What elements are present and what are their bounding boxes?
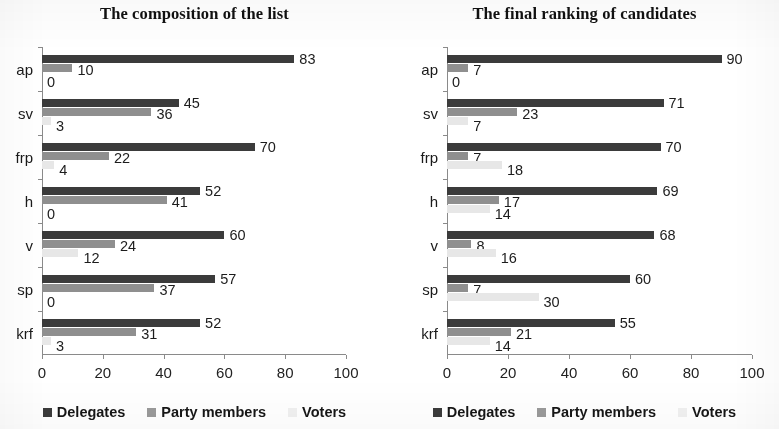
legend-item[interactable]: Voters bbox=[288, 404, 346, 420]
bar-voters bbox=[42, 249, 78, 257]
bar-voters bbox=[447, 249, 496, 257]
legend-label: Party members bbox=[161, 404, 266, 420]
legend-swatch-icon bbox=[43, 408, 52, 417]
bar-delegates bbox=[42, 143, 255, 151]
x-axis-tick-label: 20 bbox=[94, 364, 111, 381]
bar-group: ap83100 bbox=[42, 47, 346, 91]
bar-value-label: 14 bbox=[495, 207, 511, 222]
x-axis-tick bbox=[285, 355, 286, 359]
x-axis-tick-label: 100 bbox=[739, 364, 764, 381]
plot-area-left: 020406080100ap83100sv45363frp70224h52410… bbox=[42, 47, 346, 355]
bar-value-label: 57 bbox=[220, 272, 236, 287]
bar-value-label: 0 bbox=[47, 207, 55, 222]
bar-value-label: 14 bbox=[495, 339, 511, 354]
bar-value-label: 24 bbox=[120, 239, 136, 254]
chart-panel-composition: The composition of the list 020406080100… bbox=[0, 0, 389, 429]
bar-group: sv45363 bbox=[42, 91, 346, 135]
x-axis-tick bbox=[569, 355, 570, 359]
bar-party-members bbox=[42, 240, 115, 248]
bar-group: sv71237 bbox=[447, 91, 752, 135]
category-label: v bbox=[26, 237, 34, 254]
bar-value-label: 0 bbox=[47, 295, 55, 310]
bar-group: h691714 bbox=[447, 179, 752, 223]
bar-value-label: 22 bbox=[114, 151, 130, 166]
bar-value-label: 41 bbox=[172, 195, 188, 210]
bar-voters bbox=[42, 161, 54, 169]
category-label: krf bbox=[421, 325, 438, 342]
legend-swatch-icon bbox=[288, 408, 297, 417]
bar-party-members bbox=[42, 108, 151, 116]
bar-value-label: 68 bbox=[659, 228, 675, 243]
bar-voters bbox=[447, 337, 490, 345]
bar-party-members bbox=[42, 284, 154, 292]
category-label: sv bbox=[18, 105, 33, 122]
bar-value-label: 52 bbox=[205, 184, 221, 199]
legend-item[interactable]: Voters bbox=[678, 404, 736, 420]
x-axis-tick-label: 20 bbox=[500, 364, 517, 381]
x-axis-tick-label: 60 bbox=[216, 364, 233, 381]
bar-value-label: 0 bbox=[47, 75, 55, 90]
bar-value-label: 3 bbox=[56, 119, 64, 134]
bar-group: v602412 bbox=[42, 223, 346, 267]
bar-value-label: 36 bbox=[156, 107, 172, 122]
bar-value-label: 30 bbox=[544, 295, 560, 310]
x-axis-tick-label: 0 bbox=[443, 364, 451, 381]
legend-item[interactable]: Party members bbox=[147, 404, 266, 420]
legend-left: DelegatesParty membersVoters bbox=[0, 404, 389, 420]
bar-voters bbox=[42, 337, 51, 345]
bar-value-label: 52 bbox=[205, 316, 221, 331]
bar-value-label: 0 bbox=[452, 75, 460, 90]
bar-value-label: 37 bbox=[159, 283, 175, 298]
bar-group: frp70224 bbox=[42, 135, 346, 179]
legend-label: Party members bbox=[551, 404, 656, 420]
bar-value-label: 70 bbox=[260, 140, 276, 155]
bar-group: krf552114 bbox=[447, 311, 752, 355]
x-axis-tick bbox=[691, 355, 692, 359]
bar-party-members bbox=[447, 108, 517, 116]
chart-title-right: The final ranking of candidates bbox=[390, 4, 779, 24]
bar-group: h52410 bbox=[42, 179, 346, 223]
bar-value-label: 55 bbox=[620, 316, 636, 331]
bar-party-members bbox=[42, 196, 167, 204]
legend-label: Voters bbox=[692, 404, 736, 420]
legend-right: DelegatesParty membersVoters bbox=[390, 404, 779, 420]
bar-voters bbox=[447, 205, 490, 213]
x-axis-tick bbox=[164, 355, 165, 359]
bar-value-label: 45 bbox=[184, 96, 200, 111]
figure-root: The composition of the list 020406080100… bbox=[0, 0, 779, 429]
bar-party-members bbox=[42, 64, 72, 72]
bar-value-label: 4 bbox=[59, 163, 67, 178]
legend-label: Voters bbox=[302, 404, 346, 420]
legend-item[interactable]: Party members bbox=[537, 404, 656, 420]
bar-group: ap9070 bbox=[447, 47, 752, 91]
bar-value-label: 70 bbox=[666, 140, 682, 155]
bar-party-members bbox=[447, 64, 468, 72]
legend-swatch-icon bbox=[433, 408, 442, 417]
x-axis-tick-label: 80 bbox=[277, 364, 294, 381]
bar-delegates bbox=[447, 55, 722, 63]
bar-voters bbox=[447, 117, 468, 125]
x-axis-tick-label: 40 bbox=[155, 364, 172, 381]
x-axis-tick-label: 0 bbox=[38, 364, 46, 381]
legend-label: Delegates bbox=[57, 404, 126, 420]
bar-value-label: 60 bbox=[635, 272, 651, 287]
bar-value-label: 18 bbox=[507, 163, 523, 178]
legend-item[interactable]: Delegates bbox=[433, 404, 516, 420]
x-axis-tick-label: 100 bbox=[333, 364, 358, 381]
x-axis-tick bbox=[346, 355, 347, 359]
bar-party-members bbox=[447, 328, 511, 336]
x-axis-tick bbox=[447, 355, 448, 359]
bar-value-label: 10 bbox=[77, 63, 93, 78]
category-label: ap bbox=[16, 61, 33, 78]
x-axis-tick bbox=[752, 355, 753, 359]
bar-value-label: 60 bbox=[229, 228, 245, 243]
legend-item[interactable]: Delegates bbox=[43, 404, 126, 420]
bar-value-label: 90 bbox=[727, 52, 743, 67]
legend-swatch-icon bbox=[147, 408, 156, 417]
bar-party-members bbox=[447, 196, 499, 204]
bar-group: sp57370 bbox=[42, 267, 346, 311]
x-axis-tick-label: 40 bbox=[561, 364, 578, 381]
bar-voters bbox=[447, 161, 502, 169]
category-label: h bbox=[25, 193, 33, 210]
x-axis-tick bbox=[103, 355, 104, 359]
